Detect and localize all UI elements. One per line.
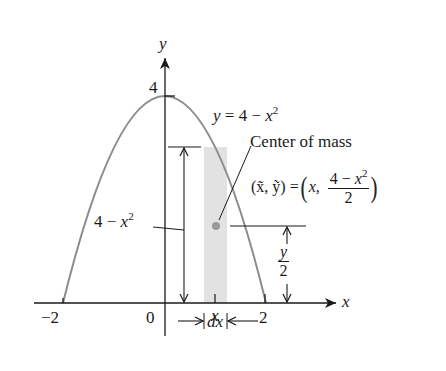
- strip-width-label: dx: [207, 313, 223, 330]
- height-label: 4 − x2: [94, 211, 134, 230]
- tick-label-0: 0: [146, 309, 155, 326]
- height-label-leader: [153, 227, 184, 230]
- curve-eq-lhs: y: [213, 106, 221, 125]
- height-label-main: 4 −: [94, 212, 121, 231]
- right-paren: ): [371, 172, 378, 202]
- centroid-num-exp: 2: [362, 167, 368, 179]
- centroid-den: 2: [345, 189, 353, 206]
- curve-eq-var: x: [265, 106, 273, 125]
- tick-label-2: 2: [259, 309, 268, 326]
- centroid-num-main: 4 −: [330, 170, 355, 187]
- centroid-x: x,: [309, 179, 320, 195]
- half-height-den: 2: [280, 262, 288, 279]
- centroid-num: 4 − x2: [328, 168, 370, 189]
- centroid-num-var: x: [355, 170, 362, 187]
- curve-equation: y = 4 − x2: [213, 105, 278, 124]
- half-height-num: y: [278, 244, 289, 262]
- half-height-label: y 2: [278, 244, 289, 279]
- tick-label-neg2: −2: [41, 309, 59, 326]
- center-of-mass-diagram: y x 4 −2 0 x 2 y = 4 − x2 4 − x2 Center …: [0, 0, 446, 371]
- curve-eq-exp: 2: [273, 104, 279, 116]
- centroid-dot: [212, 222, 220, 230]
- tick-label-4: 4: [149, 79, 158, 96]
- centroid-y-fraction: 4 − x2 2: [328, 168, 370, 206]
- left-paren: (: [300, 172, 307, 202]
- height-label-exp: 2: [128, 210, 134, 222]
- height-label-var: x: [121, 212, 129, 231]
- y-axis-label: y: [159, 35, 167, 52]
- center-of-mass-label: Center of mass: [250, 133, 352, 150]
- centroid-formula: (x̃, ỹ) = ( x, 4 − x2 2 ): [251, 159, 379, 215]
- centroid-lhs: (x̃, ỹ) =: [251, 179, 299, 195]
- curve-eq-rhs: = 4 −: [221, 106, 266, 125]
- x-axis-label: x: [342, 293, 350, 310]
